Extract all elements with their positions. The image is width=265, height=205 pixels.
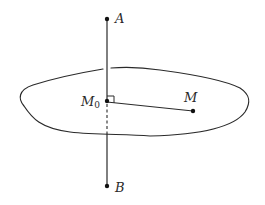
point-b — [105, 184, 109, 188]
point-m — [191, 109, 195, 113]
label-m0-subscript: 0 — [94, 100, 100, 110]
point-m0 — [105, 99, 109, 103]
label-b: B — [115, 181, 125, 194]
plane-outline — [20, 67, 249, 136]
label-m0-main: M — [81, 94, 94, 109]
diagram-figure: A B M M0 — [0, 0, 265, 205]
point-a — [105, 17, 109, 21]
diagram-canvas — [0, 0, 265, 205]
label-a: A — [115, 12, 124, 25]
segment-m0-m — [107, 102, 193, 111]
label-m0: M0 — [81, 95, 100, 110]
label-m: M — [184, 91, 197, 104]
